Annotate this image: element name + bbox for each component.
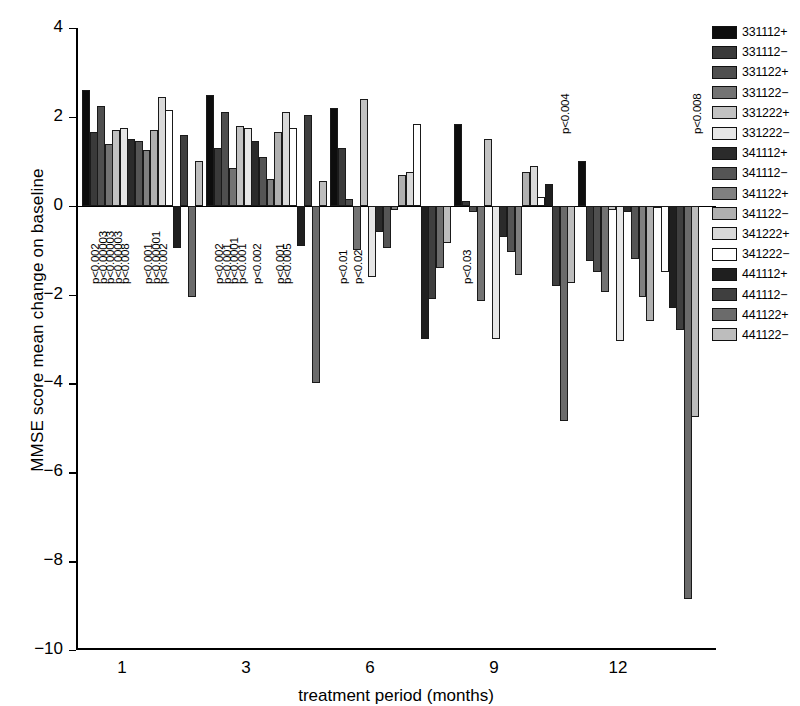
legend-item[interactable]: 441112+ [712,264,798,284]
legend-item[interactable]: 331122− [712,83,798,103]
legend-item[interactable]: 341222− [712,244,798,264]
bar [484,139,492,206]
legend-item-label: 441112− [742,288,787,302]
legend-item-label: 441122+ [742,308,788,322]
legend-item-label: 341112− [742,166,787,180]
legend-item[interactable]: 341122− [712,204,798,224]
legend-swatch-icon [712,106,737,119]
legend-item-label: 341222+ [742,227,789,241]
bar [319,181,327,205]
y-tick-label: 2 [54,106,63,126]
y-tick-label: −6 [44,461,63,481]
bar [454,124,462,206]
bar [691,206,699,417]
pvalue-label: p<0.002 [251,243,263,284]
legend-swatch-icon [712,308,737,321]
y-tick: −4 [69,383,76,384]
legend-item-label: 331112+ [742,25,787,39]
bar [545,184,553,206]
bar [383,206,391,248]
legend-item-label: 341112+ [742,146,787,160]
legend-item-label: 331112− [742,45,787,59]
legend-item-label: 341122+ [742,187,788,201]
y-tick: −6 [69,472,76,473]
legend-item[interactable]: 331222+ [712,103,798,123]
legend-item-label: 331122− [742,86,788,100]
x-tick-label: 3 [241,658,250,678]
x-tick-label: 6 [365,658,374,678]
bar [195,161,203,205]
y-tick: 4 [69,28,76,29]
legend: 331112+331112−331122+331122−331222+33122… [712,22,798,345]
y-tick: −8 [69,561,76,562]
x-axis-line [76,648,716,650]
legend-swatch-icon [712,187,737,200]
legend-swatch-icon [712,227,737,240]
bar [616,206,624,342]
legend-swatch-icon [712,328,737,341]
plot-area: 420−2−4−6−8−10 136912 p<0.002p<0.00003p<… [76,28,716,650]
bar [391,206,399,210]
legend-item[interactable]: 441122+ [712,305,798,325]
legend-item[interactable]: 341122+ [712,184,798,204]
y-tick-label: −4 [44,372,63,392]
bar [578,161,586,205]
legend-swatch-icon [712,248,737,261]
legend-item[interactable]: 331122+ [712,62,798,82]
bar [289,128,297,206]
pvalue-label: p<0.03 [461,249,473,283]
legend-item[interactable]: 331222− [712,123,798,143]
bar [345,199,353,206]
bar [165,110,173,206]
pvalue-label: p<0.01 [337,249,349,283]
y-axis-line [76,28,78,650]
legend-swatch-icon [712,46,737,59]
legend-swatch-icon [712,26,737,39]
bar [353,206,361,250]
bar [567,206,575,284]
bar [338,148,346,206]
legend-swatch-icon [712,268,737,281]
x-tick-label: 12 [608,658,627,678]
pvalue-label: p<0.001 [236,243,248,284]
y-tick: 0 [69,206,76,207]
bar [360,99,368,206]
legend-item-label: 441122− [742,328,788,342]
legend-swatch-icon [712,207,737,220]
legend-item-label: 341122− [742,207,788,221]
bar [297,206,305,246]
bar [312,206,320,384]
legend-item[interactable]: 441112− [712,284,798,304]
bar [304,115,312,206]
legend-item[interactable]: 331112+ [712,22,798,42]
y-tick-label: 4 [54,17,63,37]
bar [443,206,451,244]
legend-swatch-icon [712,127,737,140]
bar [180,135,188,206]
legend-item[interactable]: 441122− [712,325,798,345]
bar [477,206,485,302]
legend-swatch-icon [712,167,737,180]
legend-item[interactable]: 341222+ [712,224,798,244]
legend-swatch-icon [712,288,737,301]
x-tick-label: 9 [489,658,498,678]
y-tick: −2 [69,295,76,296]
y-tick: −10 [69,650,76,651]
legend-item-label: 331122+ [742,65,788,79]
pvalue-label: p<0.002 [157,243,169,284]
pvalue-label: p<0.004 [559,93,571,134]
y-tick-label: −8 [44,550,63,570]
legend-swatch-icon [712,147,737,160]
legend-item[interactable]: 331112− [712,42,798,62]
legend-item[interactable]: 341112+ [712,143,798,163]
bar [646,206,654,322]
y-tick-label: −10 [34,639,63,659]
legend-item[interactable]: 341112− [712,163,798,183]
pvalue-label: p<0.005 [281,243,293,284]
bar [173,206,181,248]
bar [188,206,196,297]
pvalue-label: p<0.008 [691,93,703,134]
y-tick-label: 0 [54,195,63,215]
bar [515,206,523,275]
